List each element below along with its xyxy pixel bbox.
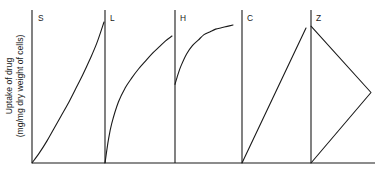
panel-label-s: S xyxy=(38,13,44,23)
axes-group xyxy=(32,10,375,163)
curve-panel-z xyxy=(311,26,371,163)
curve-panel-c xyxy=(242,28,306,163)
curve-panel-h xyxy=(175,25,233,84)
panel-label-h: H xyxy=(180,13,186,23)
panel-label-c: C xyxy=(247,13,253,23)
panel-label-z: Z xyxy=(316,13,321,23)
curve-panel-l xyxy=(105,36,172,163)
curve-panel-s xyxy=(32,22,104,163)
plot-area xyxy=(0,0,377,172)
isotherm-figure: Uptake of drug (mg/mg dry weight of cell… xyxy=(0,0,377,172)
curves-group xyxy=(32,22,371,163)
panel-label-l: L xyxy=(110,13,115,23)
